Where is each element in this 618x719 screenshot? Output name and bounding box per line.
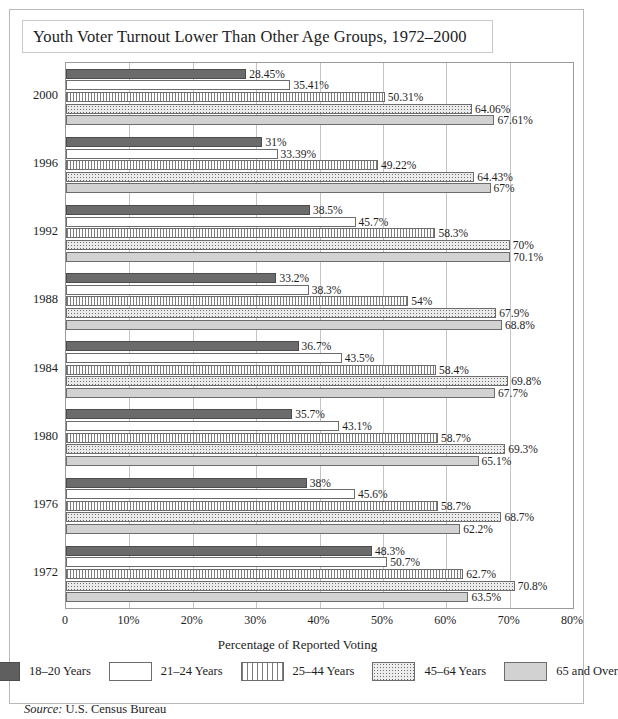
- bar-row: 58.3%: [66, 228, 573, 238]
- bar-2000-4[interactable]: [66, 115, 494, 125]
- chart-figure: Youth Voter Turnout Lower Than Other Age…: [9, 9, 584, 704]
- bar-group: 48.3%50.7%62.7%70.8%63.5%: [66, 540, 573, 608]
- bar-1972-1[interactable]: [66, 557, 387, 567]
- bar-value-label: 70%: [510, 239, 534, 251]
- bar-1992-0[interactable]: [66, 205, 310, 215]
- bar-value-label: 36.7%: [299, 340, 332, 352]
- bar-1988-1[interactable]: [66, 285, 309, 295]
- bar-row: 35.7%: [66, 409, 573, 419]
- bar-1988-3[interactable]: [66, 308, 496, 318]
- bar-1980-1[interactable]: [66, 421, 339, 431]
- bar-2000-0[interactable]: [66, 69, 246, 79]
- bar-1988-2[interactable]: [66, 296, 408, 306]
- bar-row: 35.41%: [66, 80, 573, 90]
- bar-1992-1[interactable]: [66, 217, 356, 227]
- bar-1980-0[interactable]: [66, 409, 292, 419]
- bar-1980-2[interactable]: [66, 433, 438, 443]
- bar-row: 36.7%: [66, 341, 573, 351]
- bar-row: 67.61%: [66, 115, 573, 125]
- bar-row: 64.06%: [66, 104, 573, 114]
- bar-2000-2[interactable]: [66, 92, 385, 102]
- bar-value-label: 67.9%: [496, 307, 529, 319]
- x-tick-label: 10%: [117, 613, 139, 628]
- bar-value-label: 58.7%: [438, 500, 471, 512]
- bar-1996-3[interactable]: [66, 172, 474, 182]
- bar-1972-0[interactable]: [66, 546, 372, 556]
- legend-swatch-icon: [504, 662, 547, 681]
- bar-1996-4[interactable]: [66, 183, 491, 193]
- bar-1972-3[interactable]: [66, 581, 515, 591]
- bar-row: 69.8%: [66, 376, 573, 386]
- bar-value-label: 70.1%: [510, 251, 543, 263]
- x-axis-title: Percentage of Reported Voting: [10, 637, 585, 653]
- bar-1984-1[interactable]: [66, 353, 342, 363]
- legend-label: 18–20 Years: [29, 664, 91, 679]
- bar-value-label: 63.5%: [468, 591, 501, 603]
- bar-1972-4[interactable]: [66, 592, 468, 602]
- bar-1992-3[interactable]: [66, 240, 510, 250]
- bar-1976-1[interactable]: [66, 489, 355, 499]
- bar-1984-4[interactable]: [66, 388, 495, 398]
- bar-row: 28.45%: [66, 69, 573, 79]
- bar-2000-3[interactable]: [66, 104, 472, 114]
- bar-row: 65.1%: [66, 456, 573, 466]
- bar-row: 33.39%: [66, 149, 573, 159]
- legend-item-0[interactable]: 18–20 Years: [0, 662, 91, 681]
- bar-1996-2[interactable]: [66, 160, 378, 170]
- bar-value-label: 49.22%: [378, 159, 416, 171]
- bar-row: 64.43%: [66, 172, 573, 182]
- bar-row: 70.1%: [66, 252, 573, 262]
- bar-value-label: 69.3%: [505, 443, 538, 455]
- bar-row: 54%: [66, 296, 573, 306]
- bar-value-label: 64.06%: [472, 103, 510, 115]
- bar-1988-4[interactable]: [66, 320, 502, 330]
- bar-value-label: 35.41%: [290, 79, 328, 91]
- bar-value-label: 68.8%: [502, 319, 535, 331]
- bar-group: 38.5%45.7%58.3%70%70.1%: [66, 199, 573, 267]
- bar-1984-2[interactable]: [66, 365, 436, 375]
- bar-row: 38.5%: [66, 205, 573, 215]
- bar-row: 31%: [66, 137, 573, 147]
- bar-1976-4[interactable]: [66, 524, 460, 534]
- bar-value-label: 68.7%: [501, 511, 534, 523]
- bar-1988-0[interactable]: [66, 273, 276, 283]
- bar-1992-2[interactable]: [66, 228, 435, 238]
- bar-row: 38%: [66, 478, 573, 488]
- legend-item-1[interactable]: 21–24 Years: [109, 662, 223, 681]
- bar-2000-1[interactable]: [66, 80, 290, 90]
- bar-row: 38.3%: [66, 285, 573, 295]
- bar-1980-3[interactable]: [66, 444, 505, 454]
- bar-1992-4[interactable]: [66, 252, 510, 262]
- legend-item-2[interactable]: 25–44 Years: [241, 662, 355, 681]
- bar-value-label: 58.7%: [438, 432, 471, 444]
- bar-row: 58.7%: [66, 501, 573, 511]
- bar-1984-0[interactable]: [66, 341, 299, 351]
- bar-value-label: 38.5%: [310, 204, 343, 216]
- source-note: Source: U.S. Census Bureau: [24, 702, 166, 717]
- legend-item-3[interactable]: 45–64 Years: [372, 662, 486, 681]
- bar-value-label: 50.7%: [387, 556, 420, 568]
- bar-row: 67%: [66, 183, 573, 193]
- bar-1976-2[interactable]: [66, 501, 438, 511]
- bar-value-label: 31%: [262, 136, 286, 148]
- bar-value-label: 43.1%: [339, 420, 372, 432]
- bar-group: 28.45%35.41%50.31%64.06%67.61%: [66, 63, 573, 131]
- source-value: U.S. Census Bureau: [66, 702, 167, 716]
- bar-1980-4[interactable]: [66, 456, 479, 466]
- bar-1976-3[interactable]: [66, 512, 501, 522]
- bar-1996-1[interactable]: [66, 149, 278, 159]
- bar-1984-3[interactable]: [66, 376, 508, 386]
- bar-value-label: 38.3%: [309, 284, 342, 296]
- bar-row: 70.8%: [66, 581, 573, 591]
- bar-1976-0[interactable]: [66, 478, 307, 488]
- bar-1996-0[interactable]: [66, 137, 262, 147]
- legend-label: 45–64 Years: [424, 664, 486, 679]
- bar-row: 50.31%: [66, 92, 573, 102]
- legend-swatch-icon: [0, 662, 20, 681]
- bar-1972-2[interactable]: [66, 569, 463, 579]
- bar-value-label: 45.7%: [356, 216, 389, 228]
- bar-row: 68.7%: [66, 512, 573, 522]
- legend-swatch-icon: [241, 662, 284, 681]
- source-label: Source:: [24, 702, 62, 716]
- legend-item-4[interactable]: 65 and Over: [504, 662, 618, 681]
